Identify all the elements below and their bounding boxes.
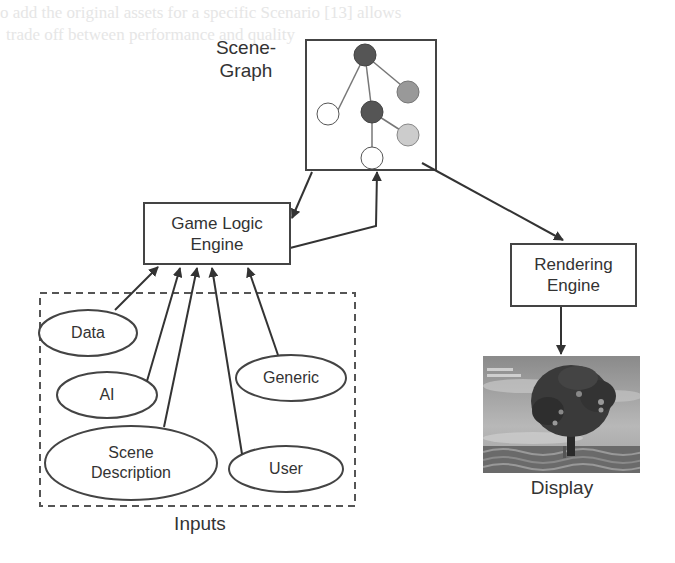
scene-graph-label: Scene- Graph bbox=[196, 36, 296, 82]
arrow-scenegraph-to-rendering bbox=[422, 163, 563, 240]
arrow-gamelogic-to-scenegraph bbox=[290, 172, 377, 248]
arrow-ai-to-gamelogic bbox=[147, 268, 180, 381]
game-logic-line2: Engine bbox=[171, 234, 263, 255]
input-data-label: Data bbox=[39, 321, 137, 345]
game-logic-line1: Game Logic bbox=[171, 213, 263, 234]
game-logic-engine-box: Game Logic Engine bbox=[143, 202, 291, 265]
arrow-scenegraph-to-gamelogic bbox=[292, 172, 312, 218]
arrow-generic-to-gamelogic bbox=[248, 268, 278, 355]
input-user-label: User bbox=[229, 457, 343, 481]
display-screenshot bbox=[483, 356, 640, 473]
arrow-scenedesc-to-gamelogic bbox=[164, 268, 197, 427]
scene-graph-label-line2: Graph bbox=[196, 59, 296, 82]
input-scene-description-label: Scene Description bbox=[45, 442, 217, 484]
scene-node-light bbox=[397, 124, 419, 146]
display-label: Display bbox=[512, 476, 612, 500]
scene-description-line2: Description bbox=[91, 463, 171, 483]
input-generic-label: Generic bbox=[236, 366, 346, 390]
scene-node-dark bbox=[361, 101, 383, 123]
arrow-user-to-gamelogic bbox=[212, 268, 242, 454]
rendering-engine-box: Rendering Engine bbox=[510, 243, 637, 307]
scene-node-root bbox=[354, 44, 376, 66]
inputs-label: Inputs bbox=[150, 512, 250, 536]
scene-node-gray bbox=[397, 81, 419, 103]
scene-node-white-bottom bbox=[361, 147, 383, 169]
scene-node-white-left bbox=[317, 103, 339, 125]
rendered-tree-scene-image bbox=[483, 356, 640, 473]
rendering-line1: Rendering bbox=[534, 254, 612, 275]
rendering-line2: Engine bbox=[534, 275, 612, 296]
arrow-data-to-gamelogic bbox=[115, 267, 158, 310]
input-ai-label: AI bbox=[57, 383, 157, 407]
scene-description-line1: Scene bbox=[108, 443, 153, 463]
scene-graph-label-line1: Scene- bbox=[196, 36, 296, 59]
